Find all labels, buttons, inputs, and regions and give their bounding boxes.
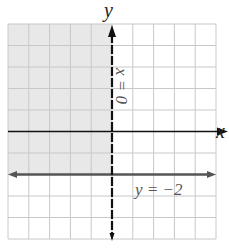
shaded-region — [8, 24, 112, 175]
y-axis-label: y — [104, 0, 113, 22]
horizontal-line-label: y = −2 — [135, 180, 183, 200]
right-arrow-icon — [207, 171, 216, 178]
down-arrow-icon — [110, 233, 115, 241]
vertical-line-label: x = 0 — [111, 68, 131, 104]
graph-plot — [0, 0, 229, 250]
x-axis-label: x — [216, 120, 225, 143]
